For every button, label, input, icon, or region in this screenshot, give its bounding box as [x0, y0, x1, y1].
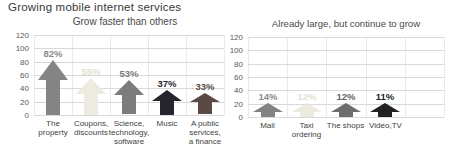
arrow-tail — [198, 102, 212, 114]
arrow-bar — [331, 103, 361, 118]
category-label-line: A public — [184, 119, 226, 128]
grid-hline — [248, 77, 444, 78]
category-label: A publicservices,a finance — [184, 119, 226, 147]
y-tick-label: 60 — [225, 73, 243, 82]
category-label-line: technology, — [108, 128, 150, 137]
arrow-bar — [370, 103, 400, 118]
y-tick-label: 0 — [4, 111, 29, 120]
arrow-chart-left: 02040608010012082%The property55%Coupons… — [4, 35, 234, 153]
category-label-line: software — [108, 137, 150, 146]
category-label-line: Video,TV — [364, 121, 407, 130]
arrow-head — [76, 78, 106, 94]
panel-left-title: Grow faster than others — [30, 16, 220, 28]
arrow-tail — [261, 112, 275, 118]
grid-hline — [34, 115, 224, 116]
y-tick-label: 100 — [4, 44, 29, 53]
arrow-head — [114, 80, 144, 95]
value-label: 33% — [183, 81, 227, 92]
y-tick-label: 40 — [225, 86, 243, 95]
category-label-line: services, — [184, 128, 226, 137]
category-label-line: The shops — [324, 121, 367, 130]
value-label: 82% — [31, 48, 75, 59]
figure: Growing mobile internet services Grow fa… — [0, 0, 450, 155]
y-tick-label: 20 — [4, 98, 29, 107]
arrow-head — [292, 103, 322, 112]
value-label: 14% — [246, 91, 290, 102]
y-tick-label: 120 — [225, 33, 243, 42]
category-label: The shops — [324, 121, 367, 130]
y-tick-label: 20 — [225, 100, 243, 109]
y-tick-label: 80 — [225, 60, 243, 69]
arrow-head — [190, 93, 220, 102]
y-tick-label: 0 — [225, 113, 243, 122]
arrow-tail — [84, 94, 98, 114]
arrow-head — [331, 103, 361, 112]
arrow-head — [152, 90, 182, 101]
arrow-chart-right: 02040608010012014%Mail12%Taxiordering12%… — [225, 37, 449, 155]
y-tick-label: 120 — [4, 31, 29, 40]
y-tick-label: 80 — [4, 58, 29, 67]
category-label: Coupons,discounts — [70, 119, 112, 137]
category-label-line: Science, — [108, 119, 150, 128]
arrow-bar — [76, 78, 106, 115]
arrow-tail — [300, 112, 314, 118]
arrow-bar — [114, 80, 144, 115]
category-label-line: ordering — [285, 130, 328, 139]
arrow-bar — [152, 90, 182, 115]
category-label-line: a finance — [184, 137, 226, 146]
category-label: Taxiordering — [285, 121, 328, 139]
category-label: Science,technology,software — [108, 119, 150, 147]
panel-right-title: Already large, but continue to grow — [248, 18, 444, 30]
arrow-tail — [122, 95, 136, 114]
category-label-line: Taxi — [285, 121, 328, 130]
panel-grow-faster: Grow faster than others 0204060801001208… — [4, 16, 234, 153]
category-label-line: Mail — [246, 121, 289, 130]
grid-hline — [248, 64, 444, 65]
grid-vline — [444, 37, 445, 117]
category-label-line: The property — [32, 119, 74, 137]
grid-hline — [248, 117, 444, 118]
arrow-bar — [190, 93, 220, 115]
category-label-line: Music — [146, 119, 188, 128]
grid-hline — [248, 50, 444, 51]
arrow-tail — [339, 112, 353, 118]
category-label: Video,TV — [364, 121, 407, 130]
category-label: The property — [32, 119, 74, 137]
arrow-bar — [292, 103, 322, 118]
arrow-bar — [253, 103, 283, 118]
arrow-head — [370, 103, 400, 112]
y-tick-label: 40 — [4, 84, 29, 93]
figure-title: Growing mobile internet services — [8, 1, 181, 13]
arrow-head — [38, 60, 68, 80]
y-tick-label: 60 — [4, 71, 29, 80]
arrow-tail — [378, 112, 392, 118]
panel-already-large: Already large, but continue to grow 0204… — [225, 18, 449, 155]
arrow-tail — [160, 101, 174, 115]
category-label-line: discounts — [70, 128, 112, 137]
arrow-head — [253, 103, 283, 112]
grid-hline — [248, 37, 444, 38]
grid-hline — [34, 35, 224, 36]
y-tick-label: 100 — [225, 46, 243, 55]
value-label: 12% — [285, 91, 329, 102]
arrow-bar — [38, 60, 68, 115]
value-label: 12% — [324, 91, 368, 102]
plot-area — [248, 37, 444, 117]
category-label-line: Coupons, — [70, 119, 112, 128]
category-label: Music — [146, 119, 188, 128]
arrow-tail — [46, 80, 60, 115]
value-label: 11% — [363, 91, 407, 102]
category-label: Mail — [246, 121, 289, 130]
